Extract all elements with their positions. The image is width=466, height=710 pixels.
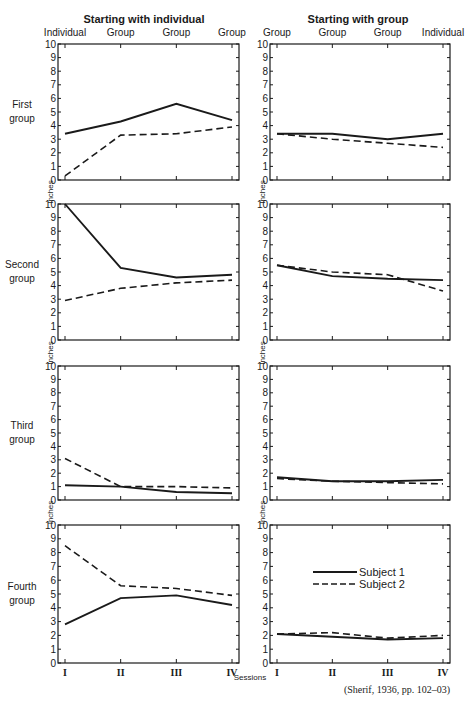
y-tick-label: 5 <box>262 267 268 278</box>
legend: Subject 1 Subject 2 <box>313 566 405 590</box>
column-label: Group <box>107 27 135 38</box>
plot-frame <box>270 44 450 180</box>
series-subject-2 <box>65 546 232 596</box>
y-tick-label: 1 <box>50 644 56 655</box>
y-tick-label: 5 <box>262 107 268 118</box>
y-tick-label: 1 <box>50 321 56 332</box>
y-tick-label: 6 <box>262 253 268 264</box>
column-label: Group <box>263 27 291 38</box>
x-tick-label: II <box>117 667 125 678</box>
group-label: group <box>9 595 35 606</box>
y-tick-label: 5 <box>50 267 56 278</box>
y-tick-label: 2 <box>262 630 268 641</box>
y-tick-label: 5 <box>262 589 268 600</box>
y-tick-label: 7 <box>50 401 56 412</box>
y-tick-label: 6 <box>50 414 56 425</box>
y-tick-label: 7 <box>262 239 268 250</box>
column-labels-left: IndividualGroupGroupGroup <box>44 27 246 38</box>
y-tick-label: 0 <box>50 658 56 669</box>
series-subject-2 <box>65 127 232 176</box>
y-tick-label: 10 <box>45 199 57 210</box>
chart-panel: 012345678910Inches <box>257 199 450 365</box>
y-tick-label: 2 <box>50 307 56 318</box>
y-tick-label: 3 <box>262 134 268 145</box>
y-tick-label: 8 <box>50 387 56 398</box>
y-tick-label: 4 <box>50 120 56 131</box>
y-tick-label: 6 <box>262 414 268 425</box>
y-tick-label: 6 <box>50 93 56 104</box>
y-tick-label: 7 <box>50 79 56 90</box>
column-label: Group <box>318 27 346 38</box>
y-tick-label: 4 <box>262 602 268 613</box>
plot-frame <box>270 204 450 340</box>
y-tick-label: 8 <box>50 547 56 558</box>
y-tick-label: 9 <box>262 52 268 63</box>
y-tick-label: 7 <box>262 401 268 412</box>
y-tick-label: 1 <box>50 481 56 492</box>
column-label: Group <box>162 27 190 38</box>
chart-panel: 012345678910IIIIIIIV <box>257 520 450 679</box>
y-tick-label: 3 <box>262 294 268 305</box>
y-tick-label: 6 <box>50 253 56 264</box>
y-tick-label: 10 <box>257 39 269 50</box>
header-starting-group: Starting with group <box>308 13 409 25</box>
chart-panel: 012345678910SecondgroupInches <box>5 199 239 365</box>
y-tick-label: 1 <box>262 321 268 332</box>
y-tick-label: 5 <box>50 589 56 600</box>
y-tick-label: 10 <box>257 199 269 210</box>
y-tick-label: 3 <box>262 616 268 627</box>
y-tick-label: 6 <box>262 575 268 586</box>
y-tick-label: 2 <box>50 468 56 479</box>
y-tick-label: 4 <box>262 280 268 291</box>
y-tick-label: 4 <box>262 120 268 131</box>
y-tick-label: 7 <box>50 239 56 250</box>
y-tick-label: 10 <box>45 39 57 50</box>
y-tick-label: 8 <box>262 66 268 77</box>
column-labels-right: GroupGroupGroupIndividual <box>263 27 464 38</box>
y-tick-label: 8 <box>50 226 56 237</box>
y-tick-label: 1 <box>262 161 268 172</box>
y-tick-label: 8 <box>262 226 268 237</box>
y-tick-label: 7 <box>262 79 268 90</box>
y-tick-label: 2 <box>262 307 268 318</box>
y-tick-label: 7 <box>262 561 268 572</box>
series-subject-1 <box>65 595 232 624</box>
x-tick-label: I <box>275 667 279 678</box>
plot-frame <box>270 525 450 663</box>
group-label: group <box>9 273 35 284</box>
y-tick-label: 6 <box>262 93 268 104</box>
y-tick-label: 9 <box>50 212 56 223</box>
group-label: First <box>12 99 32 110</box>
y-tick-label: 5 <box>50 428 56 439</box>
y-tick-label: 10 <box>45 361 57 372</box>
y-tick-label: 8 <box>50 66 56 77</box>
y-tick-label: 4 <box>50 280 56 291</box>
chart-panel: 012345678910IIIIIIIVFourthgroup <box>8 520 239 679</box>
group-label: Third <box>11 420 34 431</box>
x-tick-label: I <box>63 667 67 678</box>
y-tick-label: 4 <box>262 441 268 452</box>
header-starting-individual: Starting with individual <box>84 13 205 25</box>
legend-subject-1: Subject 1 <box>359 566 405 578</box>
series-subject-2 <box>65 458 232 487</box>
x-tick-label: III <box>382 667 394 678</box>
y-tick-label: 3 <box>50 454 56 465</box>
y-tick-label: 2 <box>50 147 56 158</box>
x-tick-label: II <box>328 667 336 678</box>
y-tick-label: 8 <box>262 547 268 558</box>
y-tick-label: 2 <box>262 147 268 158</box>
x-tick-label: III <box>170 667 182 678</box>
chart-panel: 012345678910Inches <box>257 361 450 525</box>
column-label: Individual <box>422 27 464 38</box>
y-tick-label: 9 <box>50 533 56 544</box>
y-tick-label: 6 <box>50 575 56 586</box>
series-subject-1 <box>65 204 232 277</box>
sherif-autokinetic-chart: Starting with individual Starting with g… <box>0 0 466 710</box>
y-tick-label: 9 <box>262 533 268 544</box>
group-label: group <box>9 113 35 124</box>
column-label: Individual <box>44 27 86 38</box>
group-label: Fourth <box>8 581 37 592</box>
y-tick-label: 9 <box>50 374 56 385</box>
y-tick-label: 3 <box>50 134 56 145</box>
x-axis-label-sessions: Sessions <box>234 673 266 682</box>
